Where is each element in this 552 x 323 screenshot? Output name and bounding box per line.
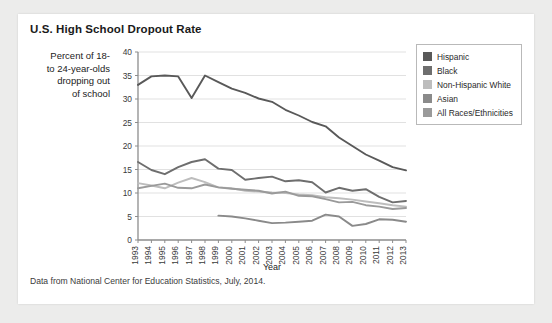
- legend-item-label: Asian: [437, 94, 458, 104]
- y-tick-label: 40: [123, 47, 133, 57]
- y-tick-label: 30: [123, 94, 133, 104]
- legend-item-label: Black: [437, 66, 457, 76]
- x-tick-label: 1996: [170, 246, 180, 265]
- x-tick-label: 1997: [184, 246, 194, 265]
- legend-item[interactable]: All Races/Ethnicities: [423, 106, 516, 119]
- x-tick-label: 2009: [344, 246, 354, 265]
- x-tick-label: 1994: [143, 246, 153, 265]
- x-tick-label: 2010: [358, 246, 368, 265]
- legend-item[interactable]: Asian: [423, 92, 516, 105]
- x-tick-label: 2013: [398, 246, 408, 265]
- legend-swatch-icon: [423, 80, 432, 89]
- series-line: [138, 178, 406, 207]
- page-title: U.S. High School Dropout Rate: [30, 23, 202, 35]
- legend-item-label: Non-Hispanic White: [437, 80, 511, 90]
- y-tick-label: 15: [123, 165, 133, 175]
- y-axis-label-line-2: to 24-year-olds: [24, 63, 110, 76]
- x-tick-label: 1999: [210, 246, 220, 265]
- y-axis-label: Percent of 18- to 24-year-olds dropping …: [24, 50, 110, 100]
- x-tick-label: 1993: [130, 246, 140, 265]
- legend-item[interactable]: Non-Hispanic White: [423, 78, 516, 91]
- chart-card: U.S. High School Dropout Rate Percent of…: [18, 14, 534, 304]
- y-tick-label: 35: [123, 71, 133, 81]
- legend-swatch-icon: [423, 66, 432, 75]
- y-axis-label-line-1: Percent of 18-: [24, 50, 110, 63]
- data-series: [138, 76, 406, 226]
- chart-svg: 0510152025303540 19931994199519961997199…: [110, 42, 410, 274]
- y-tick-label: 0: [127, 235, 132, 245]
- x-tick-label: 2006: [304, 246, 314, 265]
- x-tick-label: 1998: [197, 246, 207, 265]
- x-tick-label: 2007: [318, 246, 328, 265]
- x-tick-label: 1995: [157, 246, 167, 265]
- y-axis-label-line-4: of school: [24, 88, 110, 101]
- x-axis-title: Year: [263, 262, 281, 272]
- legend-item[interactable]: Hispanic: [423, 50, 516, 63]
- legend-item-label: Hispanic: [437, 52, 469, 62]
- line-chart-plot: 0510152025303540 19931994199519961997199…: [110, 42, 410, 274]
- x-tick-label: 2008: [331, 246, 341, 265]
- legend-swatch-icon: [423, 94, 432, 103]
- source-note: Data from National Center for Education …: [30, 276, 265, 286]
- x-tick-label: 2001: [237, 246, 247, 265]
- legend-item[interactable]: Black: [423, 64, 516, 77]
- x-tick-label: 2011: [371, 246, 381, 264]
- y-tick-label: 10: [123, 188, 133, 198]
- y-tick-label: 20: [123, 141, 133, 151]
- chart-legend: Hispanic Black Non-Hispanic White Asian …: [416, 44, 522, 125]
- y-axis-ticks: 0510152025303540: [123, 47, 138, 245]
- legend-item-label: All Races/Ethnicities: [437, 108, 513, 118]
- x-tick-label: 2005: [291, 246, 301, 265]
- legend-swatch-icon: [423, 108, 432, 117]
- x-tick-label: 2012: [385, 246, 395, 265]
- series-line: [138, 159, 406, 202]
- y-tick-label: 5: [127, 212, 132, 222]
- x-axis-ticks: 1993199419951996199719981999200020012002…: [130, 240, 408, 265]
- x-tick-label: 2002: [251, 246, 261, 265]
- legend-swatch-icon: [423, 52, 432, 61]
- x-tick-label: 2000: [224, 246, 234, 265]
- series-line: [138, 184, 406, 209]
- y-axis-label-line-3: dropping out: [24, 75, 110, 88]
- y-tick-label: 25: [123, 118, 133, 128]
